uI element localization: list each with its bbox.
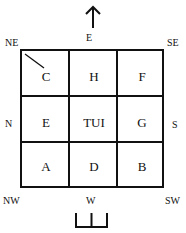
grid-cell-a: A <box>22 141 70 187</box>
grid-cell-g: G <box>118 97 166 143</box>
nine-square-grid: C H F E TUI G A D B <box>20 49 164 188</box>
grid-cell-d: D <box>70 141 118 187</box>
up-arrow-icon <box>84 5 102 29</box>
grid-cell-c: C <box>22 51 70 97</box>
grid-cell-f: F <box>118 51 166 97</box>
grid-cell-tui: TUI <box>70 97 118 143</box>
direction-label-top: E <box>86 33 92 43</box>
direction-label-bottom-right: SW <box>165 196 180 206</box>
grid-cell-e: E <box>22 97 70 143</box>
entrance-bracket-icon <box>74 213 110 229</box>
direction-label-right: S <box>172 120 178 130</box>
direction-label-top-left: NE <box>5 38 18 48</box>
direction-label-top-right: SE <box>167 38 179 48</box>
direction-label-bottom: W <box>86 196 95 206</box>
direction-label-bottom-left: NW <box>3 196 20 206</box>
grid-cell-h: H <box>70 51 118 97</box>
grid-cell-b: B <box>118 141 166 187</box>
direction-label-left: N <box>5 119 12 129</box>
